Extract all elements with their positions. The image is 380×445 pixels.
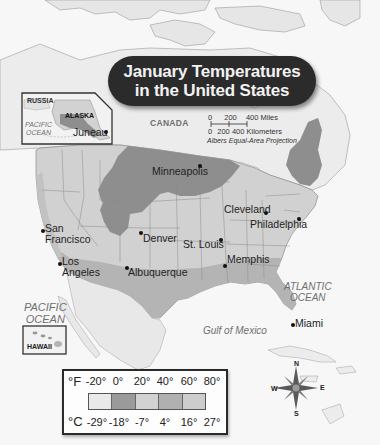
compass-w: W: [271, 385, 278, 392]
title-line-1: January Temperatures: [108, 62, 316, 81]
legend-c-tick: 16°: [181, 416, 198, 428]
projection-label: Albers Equal-Area Projection: [207, 137, 297, 144]
legend-c-tick: 27°: [204, 416, 221, 428]
label-pacific-ocean: PACIFIC OCEAN: [24, 301, 67, 325]
city-juneau: Juneau: [73, 127, 107, 138]
legend-band-1: [89, 394, 112, 409]
compass-rose-graphic: [274, 366, 318, 410]
legend-c-tick: -18°: [109, 416, 129, 428]
scale-kilometers: 0 200 400 Kilometers: [208, 127, 282, 136]
label-canada: CANADA: [150, 118, 189, 128]
city-albuquerque: Albuquerque: [128, 267, 188, 278]
legend-f-tick: 40°: [157, 375, 174, 387]
title-line-2: in the United States: [108, 81, 316, 100]
city-denver: Denver: [143, 233, 177, 244]
city-minneapolis: Minneapolis: [152, 166, 208, 177]
legend-band-5: [183, 394, 205, 409]
compass-s: S: [294, 410, 299, 417]
label-hawaii: HAWAII: [27, 343, 52, 350]
map-title: January Temperatures in the United State…: [108, 56, 316, 106]
legend-f-tick: 80°: [204, 375, 221, 387]
label-atlantic-ocean: ATLANTIC OCEAN: [284, 281, 332, 303]
temperature-map: January Temperatures in the United State…: [0, 0, 380, 445]
city-philadelphia: Philadelphia: [250, 219, 307, 230]
legend-band-2: [112, 394, 135, 409]
legend-c-tick: -7°: [135, 416, 149, 428]
legend-band-3: [136, 394, 159, 409]
legend-f-tick: 20°: [134, 375, 151, 387]
city-san-francisco: San Francisco: [45, 223, 91, 245]
legend-band-4: [159, 394, 182, 409]
arctic-islands: [45, 0, 360, 46]
legend-unit-fahrenheit: °F: [68, 374, 81, 389]
cuba: [268, 346, 336, 362]
compass-n: N: [294, 360, 299, 367]
label-pacific-inset: PACIFIC OCEAN: [25, 121, 52, 137]
city-los-angeles: Los Angeles: [62, 256, 100, 278]
legend-c-tick: 4°: [160, 416, 171, 428]
city-st-louis: St. Louis: [183, 239, 224, 250]
city-memphis: Memphis: [227, 254, 270, 265]
legend-color-bar: [88, 393, 206, 410]
scale-miles: 0 200 400 Miles: [208, 113, 278, 122]
legend-f-tick: 0°: [113, 375, 124, 387]
legend-c-tick: -29°: [87, 416, 107, 428]
legend-f-tick: -20°: [86, 375, 106, 387]
compass-e: E: [320, 384, 325, 391]
label-russia: RUSSIA: [27, 97, 53, 104]
city-miami: Miami: [295, 318, 323, 329]
legend-unit-celsius: °C: [68, 414, 83, 429]
label-gulf-of-mexico: Gulf of Mexico: [203, 325, 267, 336]
label-alaska: ALASKA: [65, 112, 94, 119]
temperature-legend: °F -20° 0° 20° 40° 60° 80° °C -29° -18° …: [62, 369, 228, 435]
legend-f-tick: 60°: [181, 375, 198, 387]
city-cleveland: Cleveland: [224, 204, 271, 215]
